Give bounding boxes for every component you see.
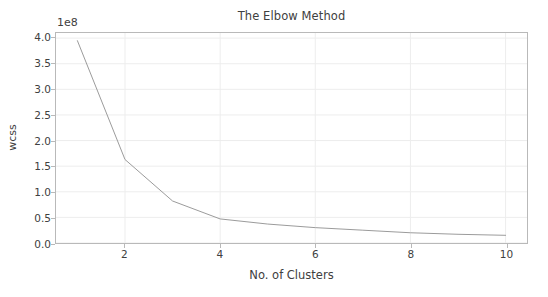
y-tick-mark bbox=[51, 141, 55, 142]
plot-area bbox=[55, 32, 528, 244]
y-tick-mark bbox=[51, 63, 55, 64]
wcss-line-series bbox=[56, 33, 527, 243]
y-axis-tick-labels: 0.00.51.01.52.02.53.03.54.0 bbox=[13, 32, 51, 244]
y-axis-offset-label: 1e8 bbox=[57, 16, 78, 29]
y-tick-mark bbox=[51, 37, 55, 38]
y-tick-label: 1.5 bbox=[17, 160, 51, 172]
x-tick-label: 10 bbox=[500, 248, 513, 260]
x-tick-label: 4 bbox=[216, 248, 223, 260]
x-tick-mark bbox=[220, 244, 221, 248]
x-tick-mark bbox=[411, 244, 412, 248]
x-tick-label: 6 bbox=[312, 248, 319, 260]
x-axis-tick-labels: 246810 bbox=[55, 248, 528, 264]
y-axis-label: wcss bbox=[6, 108, 19, 168]
wcss-line bbox=[77, 41, 505, 236]
y-tick-label: 2.0 bbox=[17, 135, 51, 147]
y-tick-label: 0.0 bbox=[17, 238, 51, 250]
y-tick-mark bbox=[51, 89, 55, 90]
x-tick-mark bbox=[124, 244, 125, 248]
y-tick-label: 4.0 bbox=[17, 31, 51, 43]
x-tick-label: 2 bbox=[121, 248, 128, 260]
y-tick-label: 0.5 bbox=[17, 212, 51, 224]
y-tick-mark bbox=[51, 166, 55, 167]
y-tick-label: 3.5 bbox=[17, 57, 51, 69]
y-tick-label: 3.0 bbox=[17, 83, 51, 95]
chart-title: The Elbow Method bbox=[55, 9, 528, 23]
y-tick-label: 1.0 bbox=[17, 186, 51, 198]
y-tick-mark bbox=[51, 244, 55, 245]
y-tick-label: 2.5 bbox=[17, 109, 51, 121]
y-tick-mark bbox=[51, 192, 55, 193]
chart-figure: The Elbow Method 1e8 0.00.51.01.52.02.53… bbox=[0, 0, 548, 297]
x-tick-mark bbox=[315, 244, 316, 248]
x-tick-label: 8 bbox=[408, 248, 415, 260]
x-tick-mark bbox=[507, 244, 508, 248]
y-tick-mark bbox=[51, 218, 55, 219]
y-tick-mark bbox=[51, 115, 55, 116]
x-axis-label: No. of Clusters bbox=[55, 268, 528, 282]
